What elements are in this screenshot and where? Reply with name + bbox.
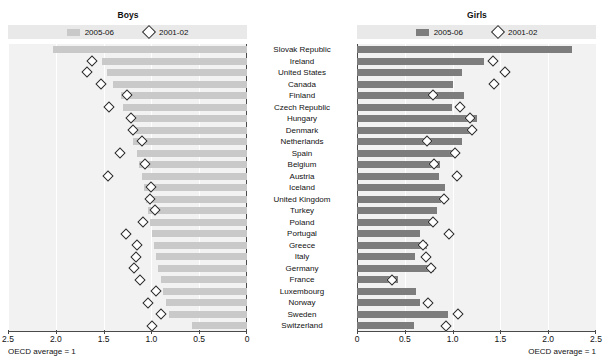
- legend-diamond-icon: [142, 25, 156, 39]
- legend-bar-swatch-icon: [67, 29, 80, 36]
- category-label: Finland: [249, 90, 355, 101]
- chart-row: [8, 67, 247, 78]
- chart-row: [8, 136, 247, 147]
- bar-girls: [357, 242, 427, 249]
- chart-row: [357, 113, 596, 124]
- tick-mark: [199, 330, 200, 334]
- diamond-marker-boys: [120, 228, 131, 239]
- diamond-marker-boys: [86, 55, 97, 66]
- bar-boys: [121, 92, 247, 99]
- tick-mark: [453, 330, 454, 334]
- chart-row: [8, 182, 247, 193]
- chart-row: [357, 90, 596, 101]
- chart-row: [357, 136, 596, 147]
- chart-row: [8, 274, 247, 285]
- legend-diamond-icon: [491, 25, 505, 39]
- chart-row: [8, 113, 247, 124]
- bar-boys: [53, 46, 247, 53]
- bar-boys: [102, 58, 247, 65]
- legend-label: 2005-06: [434, 28, 463, 37]
- bar-boys: [163, 288, 247, 295]
- diamond-marker-girls: [453, 308, 464, 319]
- category-label: Netherlands: [249, 136, 355, 147]
- chart-row: [8, 159, 247, 170]
- tick-label: 2.5: [2, 334, 14, 344]
- bar-girls: [357, 288, 416, 295]
- bar-girls: [357, 322, 414, 329]
- plot-area-boys: [8, 44, 247, 332]
- legend-entry-girls-2001: 2001-02: [493, 27, 537, 37]
- category-label: Portugal: [249, 228, 355, 239]
- category-label: Greece: [249, 240, 355, 251]
- bar-girls: [357, 253, 415, 260]
- tick-label: 2.5: [590, 334, 602, 344]
- chart-row: [357, 102, 596, 113]
- chart-row: [357, 217, 596, 228]
- category-label: Hungary: [249, 113, 355, 124]
- chart-row: [8, 205, 247, 216]
- tick-mark: [548, 330, 549, 334]
- tick-label: 2.0: [50, 334, 62, 344]
- tick-labels-girls: 00.51.01.52.02.5: [357, 334, 596, 346]
- tick-label: 1.5: [494, 334, 506, 344]
- chart-row: [357, 228, 596, 239]
- chart-row: [357, 194, 596, 205]
- figure-root: Boys Girls 2005-06 2001-02 2005-06 2001-…: [0, 0, 604, 357]
- diamond-marker-boys: [95, 78, 106, 89]
- category-label: Iceland: [249, 182, 355, 193]
- legend-bar-swatch-icon: [416, 29, 429, 36]
- bar-girls: [357, 58, 484, 65]
- category-label: Slovak Republic: [249, 44, 355, 55]
- tick-mark: [357, 330, 358, 334]
- bar-girls: [357, 46, 572, 53]
- bar-girls: [357, 150, 453, 157]
- tick-label: 0: [245, 334, 250, 344]
- bar-girls: [357, 196, 441, 203]
- bar-girls: [357, 219, 433, 226]
- panel-title-boys: Boys: [8, 10, 248, 20]
- tick-mark: [151, 330, 152, 334]
- chart-row: [357, 309, 596, 320]
- chart-row: [8, 44, 247, 55]
- bar-boys: [192, 322, 247, 329]
- bar-girls: [357, 265, 434, 272]
- chart-row: [357, 274, 596, 285]
- diamond-marker-girls: [488, 78, 499, 89]
- chart-row: [8, 251, 247, 262]
- category-label: Switzerland: [249, 320, 355, 331]
- chart-row: [8, 79, 247, 90]
- diamond-marker-boys: [130, 251, 141, 262]
- category-label: Denmark: [249, 125, 355, 136]
- diamond-marker-boys: [137, 216, 148, 227]
- chart-row: [357, 251, 596, 262]
- bar-girls: [357, 184, 445, 191]
- bar-boys: [130, 127, 247, 134]
- tick-mark: [405, 330, 406, 334]
- chart-row: [8, 148, 247, 159]
- tick-mark: [500, 330, 501, 334]
- diamond-marker-girls: [420, 251, 431, 262]
- bar-girls: [357, 207, 437, 214]
- chart-row: [357, 320, 596, 331]
- category-label: United States: [249, 67, 355, 78]
- category-label: Germany: [249, 263, 355, 274]
- bar-boys: [133, 138, 247, 145]
- category-label: Belgium: [249, 159, 355, 170]
- figure-title: [0, 0, 604, 2]
- chart-row: [8, 297, 247, 308]
- diamond-marker-boys: [82, 67, 93, 78]
- diamond-marker-boys: [114, 147, 125, 158]
- diamond-marker-girls: [422, 297, 433, 308]
- bar-girls: [357, 161, 440, 168]
- diamond-marker-boys: [134, 274, 145, 285]
- category-label: United Kingdom: [249, 194, 355, 205]
- chart-row: [357, 148, 596, 159]
- category-label: Czech Republic: [249, 102, 355, 113]
- tick-labels-boys: 2.52.01.51.00.50: [8, 334, 247, 346]
- category-label: Ireland: [249, 56, 355, 67]
- plot-area-girls: [357, 44, 596, 332]
- legend-boys: 2005-06 2001-02: [8, 25, 247, 39]
- tick-mark: [246, 330, 247, 334]
- tick-mark: [595, 330, 596, 334]
- tick-label: 2.0: [542, 334, 554, 344]
